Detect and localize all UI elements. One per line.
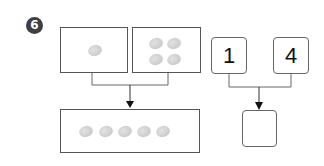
pebble-icon <box>98 124 114 138</box>
pebble-icon <box>148 36 164 50</box>
pebble-icon <box>166 52 182 66</box>
answer-box[interactable] <box>242 110 277 147</box>
pebble-box-one <box>60 27 128 73</box>
pebble-icon <box>148 52 164 66</box>
pebble-icon <box>87 43 103 57</box>
pebble-icon <box>155 124 171 138</box>
pebble-icon <box>166 36 182 50</box>
operand-box-2: 4 <box>273 37 309 74</box>
pebble-box-result <box>60 109 200 153</box>
pebble-icon <box>136 124 152 138</box>
pebble-icon <box>78 124 94 138</box>
operand-box-1: 1 <box>211 37 247 74</box>
pebble-icon <box>117 124 133 138</box>
pebble-box-four <box>132 27 201 73</box>
